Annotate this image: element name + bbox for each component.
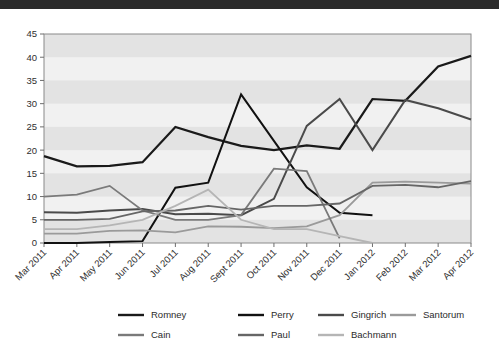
screenshot-root: 051015202530354045 Mar 2011Apr 2011May 2… xyxy=(0,0,499,356)
line-chart: 051015202530354045 Mar 2011Apr 2011May 2… xyxy=(0,9,499,356)
chart-legend: RomneyPerryGingrichSantorumCainPaulBachm… xyxy=(118,309,464,340)
y-tick-label: 25 xyxy=(26,121,37,132)
x-tick-label: Jul 2011 xyxy=(147,247,180,280)
x-tick-label: Apr 2012 xyxy=(440,247,475,282)
chart-container: 051015202530354045 Mar 2011Apr 2011May 2… xyxy=(0,9,499,356)
legend-label-paul[interactable]: Paul xyxy=(271,329,290,340)
y-tick-label: 20 xyxy=(26,145,37,156)
legend-label-romney[interactable]: Romney xyxy=(151,309,187,320)
legend-label-bachmann[interactable]: Bachmann xyxy=(351,329,396,340)
x-tick-label: Oct 2011 xyxy=(244,247,279,282)
x-axis-ticks: Mar 2011Apr 2011May 2011Jun 2011Jul 2011… xyxy=(13,243,476,285)
y-tick-label: 30 xyxy=(26,98,37,109)
x-tick-label: Jun 2011 xyxy=(112,247,147,282)
x-tick-label: May 2011 xyxy=(77,247,114,284)
y-tick-label: 10 xyxy=(26,191,37,202)
x-tick-label: Apr 2011 xyxy=(47,247,82,282)
window-top-bar xyxy=(0,0,499,9)
x-tick-label: Jan 2012 xyxy=(341,247,376,282)
y-tick-label: 45 xyxy=(26,28,37,39)
x-tick-label: Nov 2011 xyxy=(275,247,311,283)
legend-label-perry[interactable]: Perry xyxy=(271,309,294,320)
x-tick-label: Mar 2012 xyxy=(406,247,442,283)
x-tick-label: Feb 2012 xyxy=(374,247,410,283)
y-tick-label: 35 xyxy=(26,75,37,86)
x-tick-label: Dec 2011 xyxy=(308,247,344,283)
y-axis-ticks: 051015202530354045 xyxy=(26,28,44,248)
grid-band xyxy=(44,34,471,57)
legend-label-cain[interactable]: Cain xyxy=(151,329,171,340)
y-tick-label: 0 xyxy=(32,237,37,248)
y-tick-label: 15 xyxy=(26,168,37,179)
legend-label-gingrich[interactable]: Gingrich xyxy=(351,309,386,320)
x-tick-label: Sept 2011 xyxy=(208,247,246,285)
x-tick-label: Mar 2011 xyxy=(13,247,49,283)
y-tick-label: 5 xyxy=(32,214,37,225)
y-tick-label: 40 xyxy=(26,52,37,63)
grid-band xyxy=(44,127,471,150)
chart-background-bands xyxy=(44,34,471,243)
legend-label-santorum[interactable]: Santorum xyxy=(423,309,464,320)
